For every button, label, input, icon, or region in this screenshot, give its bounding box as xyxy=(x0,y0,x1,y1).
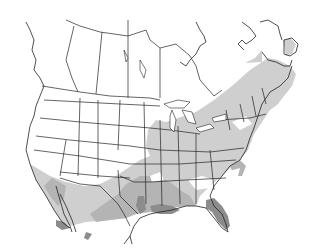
range-map xyxy=(0,0,326,251)
